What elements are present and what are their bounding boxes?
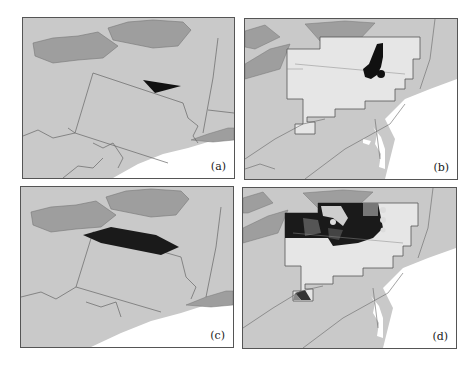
- map-panel-b: (b): [244, 18, 458, 180]
- plume-feature: [143, 80, 181, 93]
- plume-feature: [83, 227, 179, 255]
- map-panel-d: (d): [242, 187, 457, 349]
- map-panel-a: (a): [22, 17, 235, 179]
- lake-ontario: [108, 20, 191, 48]
- panel-label-c: (c): [210, 329, 225, 342]
- map-c: [21, 187, 233, 347]
- map-a: [23, 18, 234, 178]
- map-b: [245, 19, 457, 179]
- panel-label-b: (b): [433, 161, 449, 174]
- map-panel-c: (c): [20, 186, 234, 348]
- panel-label-a: (a): [211, 160, 226, 173]
- lake-erie: [33, 32, 118, 63]
- map-d: [243, 188, 456, 348]
- panel-label-d: (d): [432, 330, 448, 343]
